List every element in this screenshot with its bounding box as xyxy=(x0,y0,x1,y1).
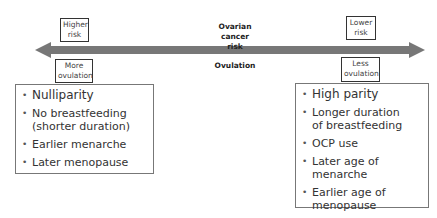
list-item: No breastfeeding (shorter duration) xyxy=(22,107,142,133)
axis-title-line: risk xyxy=(205,42,265,52)
list-item: Nulliparity xyxy=(22,88,147,102)
more-ovulation-tag: More ovulation xyxy=(55,59,93,83)
list-item: High parity xyxy=(302,87,422,101)
tag-line: Higher xyxy=(63,20,86,30)
list-item: Later menopause xyxy=(22,156,147,169)
list-item: Earlier menarche xyxy=(22,138,147,151)
tag-line: Less xyxy=(344,59,377,69)
list-item: Later age of menarche xyxy=(302,155,422,181)
tag-line: risk xyxy=(63,30,86,40)
tag-line: More xyxy=(58,61,90,71)
tag-line: ovulation xyxy=(58,71,90,81)
axis-subtitle: Ovulation xyxy=(210,61,260,71)
tag-line: risk xyxy=(349,28,373,38)
list-item: Longer duration of breastfeeding xyxy=(302,106,412,132)
less-ovulation-tag: Less ovulation xyxy=(341,57,380,82)
tag-line: ovulation xyxy=(344,69,377,79)
higher-risk-factors-box: Nulliparity No breastfeeding (shorter du… xyxy=(15,84,154,174)
list-item: OCP use xyxy=(302,137,422,150)
lower-risk-factors-list: High parity Longer duration of breastfee… xyxy=(302,87,422,212)
lower-risk-factors-box: High parity Longer duration of breastfee… xyxy=(295,83,429,208)
list-item: Earlier age of menopause xyxy=(302,186,392,212)
lower-risk-tag: Lower risk xyxy=(346,16,376,40)
axis-title-line: Ovarian cancer xyxy=(205,22,265,42)
tag-line: Lower xyxy=(349,18,373,28)
axis-title: Ovarian cancer risk xyxy=(205,22,265,52)
higher-risk-factors-list: Nulliparity No breastfeeding (shorter du… xyxy=(22,88,147,169)
higher-risk-tag: Higher risk xyxy=(60,18,89,42)
